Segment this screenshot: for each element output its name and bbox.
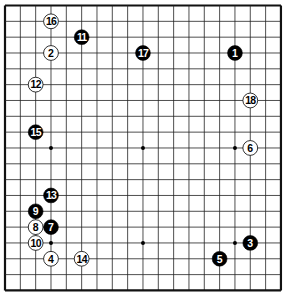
black-stone-15[interactable]: 15 [28,125,43,140]
move-number: 6 [247,142,253,154]
move-number: 5 [217,253,223,265]
black-stone-5[interactable]: 5 [212,251,227,266]
star-point [141,241,145,245]
black-stone-9[interactable]: 9 [28,204,43,219]
move-number: 8 [33,221,39,233]
move-number: 15 [31,126,42,138]
move-number: 2 [48,47,54,59]
star-point [233,146,237,150]
white-stone-14[interactable]: 14 [74,251,89,266]
white-stone-2[interactable]: 2 [44,46,59,61]
move-number: 3 [247,237,253,249]
white-stone-4[interactable]: 4 [44,251,59,266]
move-number: 16 [46,15,57,27]
black-stone-17[interactable]: 17 [136,46,151,61]
move-number: 7 [48,221,54,233]
move-number: 12 [31,78,42,90]
move-number: 4 [48,253,54,265]
go-board: 123456789101112131415161718 [0,0,284,297]
white-stone-8[interactable]: 8 [28,220,43,235]
white-stone-16[interactable]: 16 [44,14,59,29]
white-stone-6[interactable]: 6 [243,141,258,156]
move-number: 18 [245,94,256,106]
move-number: 14 [77,253,88,265]
black-stone-13[interactable]: 13 [44,188,59,203]
move-number: 13 [46,189,57,201]
black-stone-7[interactable]: 7 [44,220,59,235]
white-stone-18[interactable]: 18 [243,93,258,108]
white-stone-10[interactable]: 10 [28,236,43,251]
move-number: 10 [31,237,42,249]
star-point [49,241,53,245]
star-point [49,146,53,150]
move-number: 11 [77,31,87,43]
move-number: 17 [138,47,149,59]
star-point [233,241,237,245]
black-stone-3[interactable]: 3 [243,236,258,251]
star-point [141,146,145,150]
move-number: 9 [33,205,39,217]
black-stone-11[interactable]: 11 [74,30,89,45]
white-stone-12[interactable]: 12 [28,77,43,92]
black-stone-1[interactable]: 1 [228,46,243,61]
move-number: 1 [232,47,238,59]
